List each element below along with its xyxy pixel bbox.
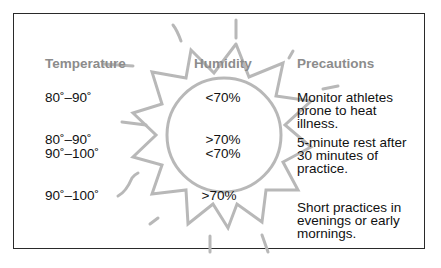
precaution-cell: Monitor athletes prone to heat illness.	[297, 91, 415, 130]
header-humidity: Humidity	[194, 57, 252, 71]
temperature-cell: 80˚–90˚	[45, 133, 92, 147]
precaution-cell: Short practices in evenings or early mor…	[297, 201, 415, 240]
temperature-cell: 90˚–100˚	[45, 189, 99, 203]
header-precautions: Precautions	[297, 57, 374, 71]
header-temperature: Temperature	[45, 57, 126, 71]
temperature-cell: 80˚–90˚	[45, 91, 92, 105]
precaution-cell: 5-minute rest after 30 minutes of practi…	[297, 136, 415, 175]
humidity-cell: >70%	[189, 189, 249, 203]
temperature-cell: 90˚–100˚	[45, 147, 99, 161]
humidity-cell: <70%	[193, 147, 253, 161]
humidity-cell: >70%	[193, 133, 253, 147]
humidity-cell: <70%	[193, 91, 253, 105]
